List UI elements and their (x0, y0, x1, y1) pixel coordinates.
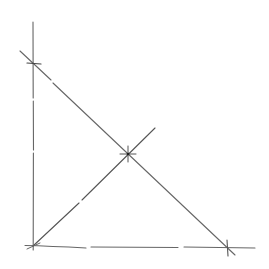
x-intercept-tick-mark (227, 240, 228, 256)
vertical-axis (33, 22, 34, 250)
y-intercept-tick-mark (27, 63, 41, 64)
horizontal-axis (25, 246, 255, 249)
sketch-canvas (0, 0, 269, 269)
origin-line (33, 128, 155, 246)
